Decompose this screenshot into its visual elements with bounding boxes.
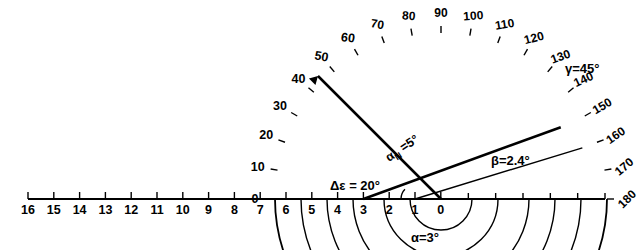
alpha-bottom-annotation: α=3° (411, 230, 439, 245)
angle-tick (278, 140, 285, 142)
axis-labels-group: 161514131211109876543210 (21, 203, 444, 217)
delta-epsilon-annotation: Δε = 20° (330, 178, 380, 193)
angle-scale-label: 10 (251, 160, 265, 174)
angle-tick (355, 49, 359, 55)
angle-scale-label: 90 (434, 6, 448, 20)
angle-scale-label: 160 (604, 124, 629, 147)
angle-scale-label: 50 (313, 48, 329, 64)
angle-scale-label: 150 (590, 95, 615, 117)
angle-tick (271, 169, 278, 170)
angle-scale-label: 120 (523, 28, 546, 47)
angle-tick (585, 113, 591, 117)
angle-scale-label: 70 (370, 16, 386, 32)
axis-tick-label: 11 (150, 203, 163, 217)
angle-tick (604, 169, 611, 170)
angle-scale-label: 60 (340, 30, 356, 46)
angle-scale-label: 180 (615, 187, 639, 211)
angle-tick (498, 36, 500, 43)
axis-tick-label: 15 (47, 203, 61, 217)
angle-scale-label: 20 (259, 128, 273, 142)
angle-marker-arc (401, 189, 405, 199)
axis-tick-label: 10 (176, 203, 190, 217)
gamma-arrowhead-icon (309, 76, 318, 85)
angle-tick (524, 49, 528, 55)
axis-tick-label: 6 (283, 203, 290, 217)
angle-tick (568, 88, 573, 92)
angle-labels-group: 0102030405060708090100110120130140150160… (251, 6, 639, 211)
angle-scale-label: 80 (401, 8, 416, 23)
angle-scale-label: 110 (494, 16, 516, 33)
axis-tick-label: 1 (412, 203, 419, 217)
axis-tick-label: 3 (360, 203, 367, 217)
angle-tick (411, 29, 412, 36)
angle-scale-label: 30 (273, 99, 287, 113)
angle-tick (291, 113, 297, 117)
polar-nomogram-figure: 0102030405060708090100110120130140150160… (0, 0, 639, 250)
axis-tick-label: 5 (308, 203, 315, 217)
diagram-canvas: 0102030405060708090100110120130140150160… (0, 0, 639, 250)
beta-annotation: β=2.4° (491, 153, 530, 168)
axis-tick-label: 12 (124, 203, 138, 217)
axis-tick-label: 4 (334, 203, 341, 217)
angle-tick (597, 140, 604, 142)
axis-tick-label: 16 (21, 203, 35, 217)
angle-tick (548, 66, 552, 71)
axis-tick-label: 0 (437, 203, 444, 217)
axis-tick-label: 13 (98, 203, 112, 217)
axis-tick-label: 14 (73, 203, 87, 217)
bottom-axis-group (28, 192, 605, 199)
angle-tick (470, 29, 471, 36)
axis-tick-label: 7 (257, 203, 264, 217)
angle-scale-label: 170 (612, 155, 637, 179)
axis-tick-label: 9 (205, 203, 212, 217)
axis-tick-label: 8 (231, 203, 238, 217)
angle-scale-label: 40 (292, 72, 306, 86)
angle-tick (308, 88, 313, 92)
gamma-annotation: γ=45° (565, 61, 599, 76)
angle-scale-label: 100 (463, 8, 484, 24)
axis-tick-label: 2 (386, 203, 393, 217)
angle-tick (330, 66, 334, 71)
angle-tick (382, 36, 384, 43)
